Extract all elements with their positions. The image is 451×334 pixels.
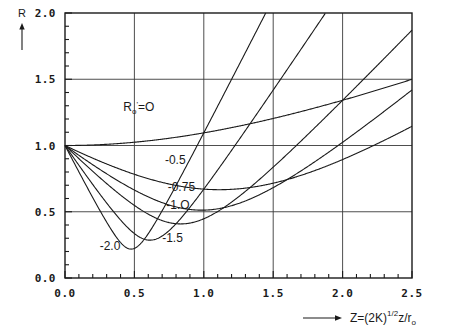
curve-label-R0p=-0.5: -0.5 — [165, 153, 186, 167]
x-axis-title: Z=(2K)1/2z/ro — [350, 309, 416, 327]
x-tick-label: 0.0 — [54, 287, 75, 300]
x-tick-label: 2.0 — [332, 287, 353, 300]
x-tick-label: 1.5 — [263, 287, 284, 300]
x-tick-label: 1.0 — [193, 287, 214, 300]
x-axis-title-exponent: 1/2 — [387, 309, 399, 318]
x-axis-title-subscript: o — [411, 318, 416, 327]
y-tick-label: 0.5 — [35, 206, 56, 219]
y-tick-label: 1.5 — [35, 73, 56, 86]
curve-label-base: R — [123, 100, 132, 114]
x-tick-label: 2.5 — [401, 287, 422, 300]
x-axis-title-base: Z=(2K) — [350, 311, 387, 325]
y-tick-label: 2.0 — [35, 7, 56, 20]
curve-label-R0p=-1.5: -1.5 — [162, 231, 183, 245]
x-tick-label: 0.5 — [124, 287, 145, 300]
y-axis-title: R — [18, 7, 26, 19]
curve-label-R0p=0: Ro'=O — [123, 100, 154, 116]
curve-label-R0p=-1.0: -1.O — [166, 198, 189, 212]
curve-label-R0p=-0.75: -0.75 — [168, 180, 196, 194]
y-tick-label: 1.0 — [35, 140, 56, 153]
x-axis-title-mid: z/r — [398, 311, 411, 325]
y-tick-label: 0.0 — [35, 272, 56, 285]
curve-label-value: =O — [138, 100, 154, 114]
plot-figure: 0.00.51.01.52.02.5 0.00.51.01.52.0 Ro'=O… — [0, 0, 451, 334]
figure-background — [0, 0, 451, 334]
curve-label-R0p=-2.0: -2.0 — [100, 239, 121, 253]
